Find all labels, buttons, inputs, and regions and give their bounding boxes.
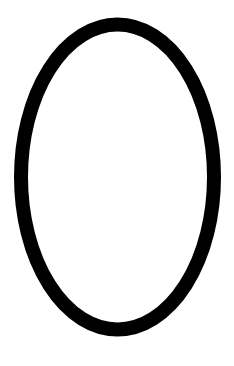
diagram-canvas: [0, 0, 234, 366]
ellipse-diagram: [0, 0, 234, 366]
ellipse-outline: [21, 25, 214, 330]
